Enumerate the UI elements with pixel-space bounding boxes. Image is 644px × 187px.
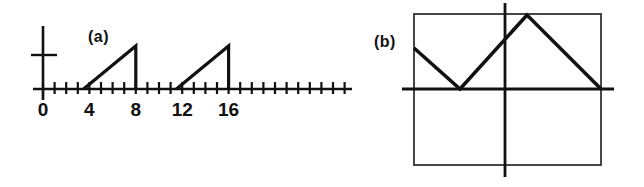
x-tick-label-12: 12 <box>172 99 193 120</box>
x-tick-label-0: 0 <box>38 99 49 120</box>
panel-a-label: (a) <box>88 28 109 45</box>
figure-container: (a) <box>0 0 644 187</box>
x-tick-label-4: 4 <box>84 99 95 120</box>
x-tick-label-16: 16 <box>218 99 239 120</box>
panel-b-label: (b) <box>374 33 396 50</box>
waveform-figure: (a) <box>0 0 644 187</box>
x-tick-label-8: 8 <box>131 99 142 120</box>
